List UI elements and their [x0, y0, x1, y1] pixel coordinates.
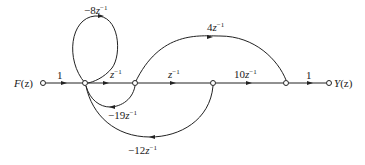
gain-label-n2-n4: 4z−1	[207, 21, 225, 33]
arc-n2-n4	[135, 36, 286, 83]
node-4	[284, 81, 289, 86]
arrow-icon	[307, 81, 313, 85]
arc-n2-n1	[86, 86, 135, 107]
node-3	[211, 81, 216, 86]
gain-label-n2-n3: z−1	[167, 68, 180, 80]
gain-label-n3-n1: −12z−1	[128, 144, 157, 156]
gain-label-n1-n2: z−1	[109, 68, 122, 80]
node-2	[133, 81, 138, 86]
arrow-icon	[149, 135, 155, 139]
node-output	[327, 81, 332, 86]
arrow-icon	[61, 81, 67, 85]
gain-label-self-loop: −8z−1	[84, 4, 108, 16]
gain-label-F-n1: 1	[57, 69, 63, 81]
arrow-icon	[170, 81, 176, 85]
output-label: Y(z)	[334, 77, 353, 90]
node-input	[41, 81, 46, 86]
gain-label-n4-Y: 1	[306, 69, 312, 81]
gain-label-n3-n4: 10z−1	[234, 68, 257, 80]
node-1	[83, 81, 88, 86]
gain-label-n2-n1: −19z−1	[108, 109, 137, 121]
arrow-icon	[103, 81, 109, 85]
signal-flow-graph: F(z) Y(z) 1 −8z−1 z−1 z−1 10z−1 1 4z−1 −…	[0, 0, 365, 165]
input-label: F(z)	[13, 77, 33, 90]
arc-n3-n1	[86, 86, 213, 137]
arrow-icon	[246, 81, 252, 85]
